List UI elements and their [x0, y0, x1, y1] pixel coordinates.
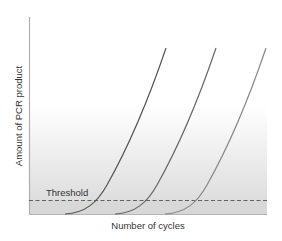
plot-area: [29, 17, 267, 214]
y-axis-label: Amount of PCR product: [13, 66, 24, 166]
pcr-amplification-chart: [0, 0, 282, 241]
x-axis-label: Number of cycles: [111, 220, 184, 231]
threshold-label: Threshold: [46, 187, 88, 198]
baseline-band: [29, 200, 267, 214]
